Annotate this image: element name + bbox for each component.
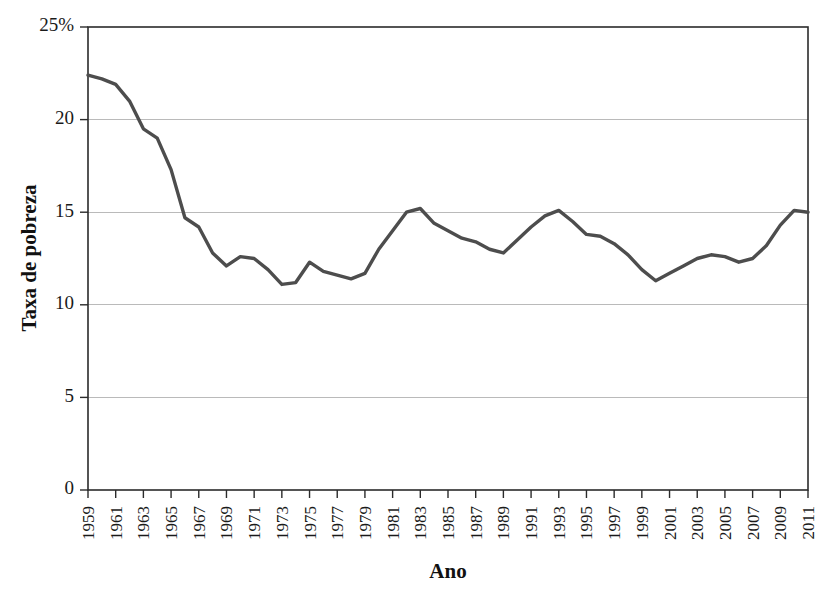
- chart-canvas: 0510152025% 1959196119631965196719691971…: [0, 0, 836, 594]
- y-tick-label-5: 5: [65, 385, 75, 406]
- y-tick-label-20: 20: [55, 107, 74, 128]
- x-tick-label-1999: 1999: [633, 506, 652, 540]
- x-tick-label-1985: 1985: [439, 506, 458, 540]
- x-tick-label-1997: 1997: [605, 506, 624, 541]
- y-tick-label-0: 0: [65, 477, 75, 498]
- x-tick-label-1989: 1989: [494, 506, 513, 540]
- x-tick-label-1965: 1965: [162, 506, 181, 540]
- x-tick-label-2011: 2011: [799, 506, 818, 539]
- x-tick-label-1993: 1993: [550, 506, 569, 540]
- x-tick-label-1967: 1967: [190, 506, 209, 541]
- x-tick-label-2005: 2005: [716, 506, 735, 540]
- x-tick-label-1971: 1971: [245, 506, 264, 540]
- x-tick-label-1991: 1991: [522, 506, 541, 540]
- x-tick-label-1983: 1983: [411, 506, 430, 540]
- x-tick-label-1977: 1977: [328, 506, 347, 541]
- x-tick-label-1981: 1981: [384, 506, 403, 540]
- poverty-rate-line-chart: 0510152025% 1959196119631965196719691971…: [0, 0, 836, 594]
- x-tick-label-1975: 1975: [301, 506, 320, 540]
- x-tick-label-1979: 1979: [356, 506, 375, 540]
- x-tick-label-1959: 1959: [79, 506, 98, 540]
- x-tick-label-2003: 2003: [688, 506, 707, 540]
- y-tick-label-15: 15: [55, 200, 74, 221]
- y-axis: 0510152025%: [39, 14, 88, 498]
- x-tick-label-1961: 1961: [107, 506, 126, 540]
- x-tick-label-1963: 1963: [134, 506, 153, 540]
- x-tick-label-1973: 1973: [273, 506, 292, 540]
- y-axis-title: Taxa de pobreza: [17, 184, 41, 332]
- x-tick-label-2007: 2007: [744, 506, 763, 541]
- poverty-rate-series: [88, 75, 808, 284]
- x-tick-label-2001: 2001: [661, 506, 680, 540]
- x-tick-label-1969: 1969: [217, 506, 236, 540]
- x-axis: 1959196119631965196719691971197319751977…: [79, 490, 818, 540]
- x-axis-title: Ano: [429, 559, 466, 583]
- y-tick-label-25: 25%: [39, 14, 74, 35]
- x-tick-label-1987: 1987: [467, 506, 486, 541]
- y-tick-label-10: 10: [55, 292, 74, 313]
- x-tick-label-1995: 1995: [577, 506, 596, 540]
- x-tick-label-2009: 2009: [771, 506, 790, 540]
